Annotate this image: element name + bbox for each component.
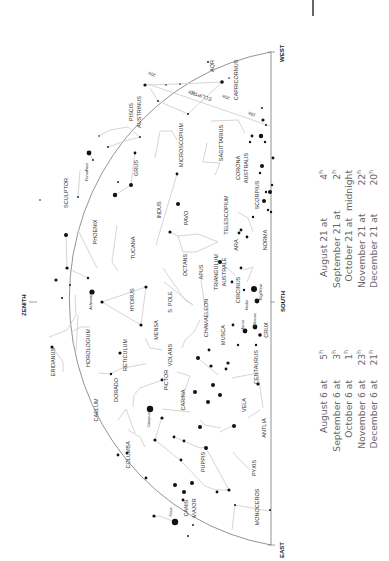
viewing-hour: 4h bbox=[318, 170, 331, 218]
constellation-label: CARINA bbox=[180, 389, 186, 410]
constellation-label: NORMA bbox=[262, 229, 268, 250]
constellation-label: MONOCEROS bbox=[254, 488, 260, 525]
constellation-label: CAPRICORNUS bbox=[233, 59, 239, 100]
constellation-label: CAELUM bbox=[93, 398, 99, 421]
constellation-label: INDUS bbox=[156, 201, 162, 218]
viewing-time-row: October 21 atmidnight bbox=[343, 170, 356, 288]
constellation-label: ANTLIA bbox=[261, 418, 267, 438]
constellation-label: CORONA bbox=[235, 156, 241, 180]
constellation-label: CANIS bbox=[183, 499, 189, 516]
viewing-date: December 6 at bbox=[368, 380, 381, 452]
constellation-label: CHAMAELEON bbox=[203, 299, 209, 338]
label-east: EAST bbox=[279, 542, 285, 558]
constellation-label: MAJOR bbox=[191, 498, 197, 517]
star-name-label: Sirius bbox=[169, 507, 173, 517]
constellation-label: PYXIS bbox=[251, 460, 257, 477]
viewing-time-row: December 21 at20h bbox=[368, 170, 381, 288]
viewing-hour: 20h bbox=[368, 170, 381, 218]
constellation-label: HOROLOGIUM bbox=[85, 328, 91, 367]
viewing-time-row: November 21 at22h bbox=[356, 170, 369, 288]
ecliptic-marker: 19h bbox=[247, 110, 256, 117]
viewing-date: September 21 at bbox=[331, 218, 344, 288]
constellation-label: PISCIS bbox=[128, 103, 134, 121]
viewing-date: November 6 at bbox=[356, 380, 369, 452]
constellation-label: PHOENIX bbox=[92, 219, 98, 244]
viewing-hour: 21h bbox=[368, 350, 381, 380]
star-name-label: Hadar bbox=[245, 299, 249, 310]
constellation-label: APUS bbox=[198, 264, 204, 279]
viewing-time-row: November 6 at23h bbox=[356, 350, 369, 452]
constellation-label: S. POLE bbox=[167, 291, 173, 313]
constellation-label: GRUS bbox=[133, 160, 139, 176]
constellation-label: OCTANS bbox=[182, 253, 188, 276]
viewing-date: September 6 at bbox=[331, 380, 344, 452]
viewing-time-row: December 6 at21h bbox=[368, 350, 381, 452]
viewing-date: November 21 at bbox=[356, 218, 369, 288]
viewing-hour: 3h bbox=[331, 350, 344, 380]
constellation-label: PUPPIS bbox=[200, 452, 206, 473]
star-name-label: Canopus bbox=[147, 412, 151, 427]
viewing-date: October 21 at bbox=[343, 218, 356, 288]
star-name-labels: FomalhautAchernarRigil KentHadarMimosaAc… bbox=[85, 162, 263, 517]
constellation-label: DORADO bbox=[113, 377, 119, 402]
constellation-label: ARA bbox=[233, 239, 239, 251]
constellation-label: COLUMBA bbox=[125, 441, 131, 469]
viewing-date: December 21 at bbox=[368, 218, 381, 288]
constellation-label: SCULPTOR bbox=[63, 178, 69, 208]
viewing-time-row: August 21 at4h bbox=[318, 170, 331, 288]
constellation-label: SAGITTARIUS bbox=[218, 125, 224, 162]
viewing-hour: 22h bbox=[356, 170, 369, 218]
viewing-time-row: September 6 at3h bbox=[331, 350, 344, 452]
label-zenith: ZENITH bbox=[21, 294, 27, 316]
constellation-label: CRUX bbox=[263, 322, 269, 338]
constellation-label: AUSTRINUS bbox=[136, 96, 142, 128]
constellation-label: ERIDANUS bbox=[50, 347, 56, 376]
constellation-label: VELA bbox=[241, 398, 247, 412]
constellation-label: VOLANS bbox=[167, 344, 173, 367]
viewing-date: August 6 at bbox=[318, 380, 331, 452]
star-name-label: Rigil Kent bbox=[259, 283, 263, 300]
constellation-label: TRIANGULUM bbox=[213, 253, 219, 290]
constellation-label: CIRCINUS bbox=[235, 276, 241, 303]
constellation-label: AUSTRALIS bbox=[243, 152, 249, 183]
constellation-label: TUCANA bbox=[130, 236, 136, 259]
star-name-label: Mimosa bbox=[253, 313, 257, 326]
constellation-label: PICTOR bbox=[163, 370, 169, 391]
viewing-date: October 6 at bbox=[343, 380, 356, 452]
viewing-hour: 23h bbox=[356, 350, 369, 380]
viewing-time-row: August 6 at5h bbox=[318, 350, 331, 452]
ecliptic-marker: 20h bbox=[221, 93, 230, 100]
label-south: SOUTH bbox=[280, 291, 286, 312]
constellation-label: TELESCOPIUM bbox=[223, 195, 229, 235]
label-west: WEST bbox=[279, 44, 285, 62]
ecliptic-marker: 21h bbox=[187, 89, 196, 96]
constellation-label: PAVO bbox=[183, 210, 189, 225]
viewing-hour: 2h bbox=[331, 170, 344, 218]
constellation-label: AUSTRALE bbox=[221, 257, 227, 286]
viewing-time-row: October 6 at1h bbox=[343, 350, 356, 452]
constellation-label: MICROSCOPIUM bbox=[178, 123, 184, 167]
viewing-hour: 1h bbox=[343, 350, 356, 380]
constellation-label: CENTAURUS bbox=[253, 350, 259, 384]
constellation-label: SCORPIUS bbox=[254, 180, 260, 209]
star-name-label: Acrux bbox=[241, 319, 245, 331]
ecliptic-marker: 20h bbox=[147, 70, 156, 77]
constellation-label: HYDRUS bbox=[129, 288, 135, 312]
constellation-label: MENSA bbox=[153, 320, 159, 340]
constellation-lines bbox=[49, 82, 269, 530]
constellation-label: RETICULUM bbox=[122, 339, 128, 372]
viewing-date: August 21 at bbox=[318, 218, 331, 288]
constellation-label: MUSCA bbox=[220, 325, 226, 345]
star-name-label: Fomalhaut bbox=[85, 162, 89, 181]
viewing-hour: midnight bbox=[343, 170, 356, 218]
star-name-label: Achernar bbox=[89, 294, 93, 311]
viewing-hour: 5h bbox=[318, 350, 331, 380]
constellation-label: AQR bbox=[209, 60, 215, 72]
viewing-time-row: September 21 at2h bbox=[331, 170, 344, 288]
